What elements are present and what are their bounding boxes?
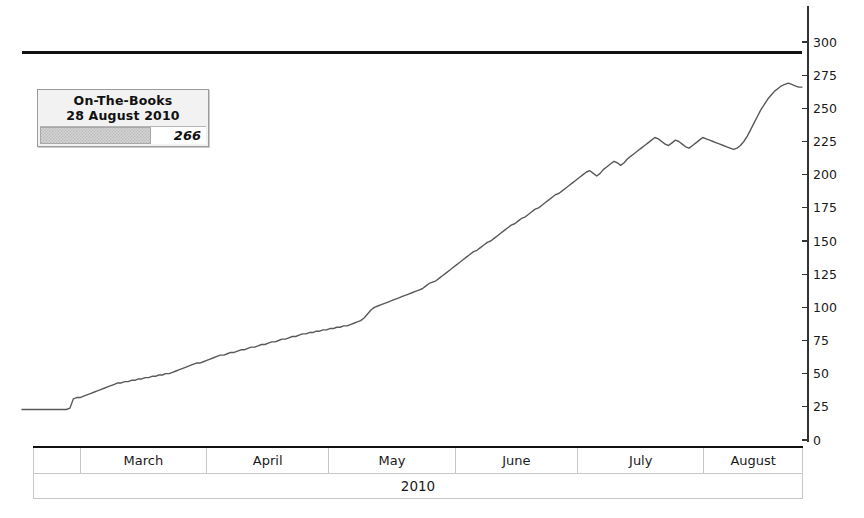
- x-axis-month-march: March: [81, 448, 207, 474]
- legend-value-row: 266: [40, 126, 206, 144]
- y-axis: 3002752502252001751501251007550250: [800, 6, 862, 446]
- legend-value: 266: [151, 127, 206, 144]
- y-tick-label: 200: [813, 167, 837, 182]
- y-tick-label: 25: [813, 399, 829, 414]
- y-tick-label: 300: [813, 35, 837, 50]
- y-tick-label: 100: [813, 300, 837, 315]
- x-axis-year-label: 2010: [33, 474, 803, 499]
- y-tick-label: 250: [813, 101, 837, 116]
- y-axis-svg: 3002752502252001751501251007550250: [800, 6, 862, 446]
- x-axis-month-may: May: [329, 448, 455, 474]
- y-tick-label: 275: [813, 68, 837, 83]
- plot-area: [22, 6, 802, 442]
- y-tick-label: 175: [813, 200, 837, 215]
- y-tick-label: 75: [813, 333, 829, 348]
- y-tick-label: 0: [813, 433, 821, 448]
- y-tick-label: 50: [813, 366, 829, 381]
- x-axis-month-blank: [33, 448, 81, 474]
- y-tick-label: 125: [813, 267, 837, 282]
- plot-svg: [22, 6, 802, 442]
- y-axis-ticks: 3002752502252001751501251007550250: [802, 35, 837, 448]
- y-tick-label: 150: [813, 234, 837, 249]
- x-axis-month-row: MarchAprilMayJuneJulyAugust: [33, 448, 803, 474]
- x-axis-month-april: April: [207, 448, 329, 474]
- legend-series-label: On-The-Books: [42, 93, 204, 108]
- booking-pace-chart: 3002752502252001751501251007550250 On-Th…: [0, 0, 864, 518]
- x-axis-year-row: 2010: [33, 474, 803, 499]
- legend-title-block: On-The-Books 28 August 2010: [38, 90, 208, 125]
- chart-legend: On-The-Books 28 August 2010 266: [37, 89, 209, 147]
- y-tick-label: 225: [813, 134, 837, 149]
- x-axis-month-july: July: [578, 448, 704, 474]
- x-axis: MarchAprilMayJuneJulyAugust 2010: [33, 446, 803, 499]
- x-axis-month-august: August: [704, 448, 803, 474]
- legend-color-swatch: [40, 127, 151, 144]
- legend-date-label: 28 August 2010: [42, 108, 204, 123]
- x-axis-month-june: June: [456, 448, 578, 474]
